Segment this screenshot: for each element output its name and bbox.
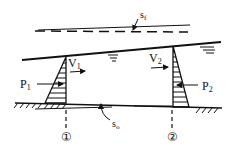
velocity-2-arrow xyxy=(151,67,168,68)
energy-slope-label: sf xyxy=(140,9,147,22)
pressure-distribution-1 xyxy=(45,57,66,103)
bed-slope-label: so xyxy=(112,118,120,131)
water-surface-symbol-1 xyxy=(108,55,118,61)
velocity-1-label: V1 xyxy=(68,56,81,71)
section-1-marker: ① xyxy=(61,130,72,144)
pressure-force-2-label: P2 xyxy=(202,79,213,94)
energy-grade-line xyxy=(35,25,190,32)
pressure-force-1-label: P1 xyxy=(20,77,31,92)
section-2-marker: ② xyxy=(167,130,178,144)
pressure-distribution-2 xyxy=(173,46,189,107)
channel-bed-line xyxy=(15,103,222,108)
water-surface-line xyxy=(22,42,221,60)
bed-slope-pointer xyxy=(101,104,110,120)
bed-hatching-right xyxy=(196,108,218,113)
velocity-1-arrow xyxy=(70,71,85,72)
energy-slope-pointer xyxy=(133,19,138,30)
horizontal-reference-line xyxy=(35,106,172,109)
channel-flow-diagram: sf xyxy=(0,0,232,155)
velocity-2-label: V2 xyxy=(149,51,162,66)
water-surface-symbol-2 xyxy=(200,47,215,53)
